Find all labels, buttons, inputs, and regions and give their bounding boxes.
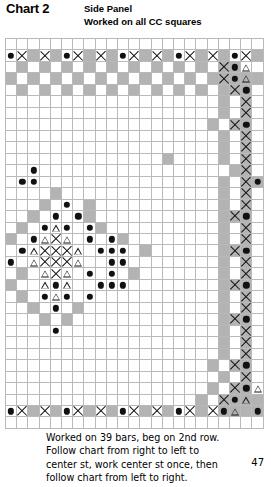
chart-cell (185, 302, 196, 313)
cross-icon (241, 223, 251, 233)
chart-cell (129, 233, 140, 244)
cross-icon (51, 245, 61, 255)
chart-cell (230, 153, 241, 164)
chart-cell (129, 176, 140, 187)
chart-cell (162, 176, 173, 187)
chart-cell (241, 119, 252, 130)
chart-row (6, 279, 264, 290)
chart-cell (106, 142, 117, 153)
chart-cell (196, 142, 207, 153)
chart-row (6, 337, 264, 348)
chart-cell (118, 325, 129, 336)
chart-cell (84, 165, 95, 176)
chart-cell (84, 73, 95, 84)
chart-cell (151, 302, 162, 313)
chart-cell (17, 73, 28, 84)
chart-cell (162, 153, 173, 164)
filled-dot-icon (6, 406, 16, 416)
chart-cell (73, 337, 84, 348)
chart-cell (95, 165, 106, 176)
chart-cell (174, 325, 185, 336)
chart-cell (62, 39, 73, 50)
chart-cell (207, 394, 218, 405)
chart-cell (185, 130, 196, 141)
chart-cell (207, 325, 218, 336)
chart-cell (140, 199, 151, 210)
chart-cell (95, 279, 106, 290)
cross-icon (51, 268, 61, 278)
cross-icon (241, 165, 251, 175)
chart-row (6, 233, 264, 244)
chart-cell (17, 291, 28, 302)
chart-cell (118, 417, 129, 429)
chart-cell (151, 165, 162, 176)
chart-row (6, 188, 264, 199)
chart-cell (241, 337, 252, 348)
chart-cell (162, 337, 173, 348)
chart-cell (84, 96, 95, 107)
chart-cell (17, 417, 28, 429)
chart-cell (230, 337, 241, 348)
chart-cell (151, 61, 162, 72)
chart-row (6, 211, 264, 222)
chart-cell (140, 61, 151, 72)
chart-cell (95, 371, 106, 382)
chart-cell (196, 73, 207, 84)
chart-cell (174, 348, 185, 359)
chart-cell (129, 84, 140, 95)
chart-cell (151, 360, 162, 371)
chart-cell (151, 153, 162, 164)
filled-dot-icon (73, 211, 83, 221)
chart-cell (185, 119, 196, 130)
chart-cell (151, 119, 162, 130)
chart-cell (95, 119, 106, 130)
chart-cell (129, 302, 140, 313)
chart-cell (207, 360, 218, 371)
chart-cell (230, 245, 241, 256)
chart-cell (140, 256, 151, 267)
chart-cell (84, 233, 95, 244)
chart-cell (39, 279, 50, 290)
chart-cell (241, 417, 252, 429)
chart-cell (218, 268, 229, 279)
chart-cell (230, 383, 241, 394)
chart-cell (62, 50, 73, 61)
chart-cell (252, 291, 264, 302)
chart-cell (39, 371, 50, 382)
chart-cell (50, 61, 61, 72)
chart-cell (106, 50, 117, 61)
chart-cell (230, 417, 241, 429)
filled-dot-icon (241, 360, 251, 370)
filled-dot-icon (84, 234, 94, 244)
chart-cell (17, 337, 28, 348)
chart-cell (140, 417, 151, 429)
chart-cell (218, 291, 229, 302)
chart-cell (230, 302, 241, 313)
chart-cell (207, 268, 218, 279)
chart-cell (17, 360, 28, 371)
chart-cell (185, 360, 196, 371)
chart-cell (151, 233, 162, 244)
chart-cell (140, 142, 151, 153)
chart-cell (241, 39, 252, 50)
cross-icon (241, 200, 251, 210)
chart-cell (252, 130, 264, 141)
chart-cell (151, 325, 162, 336)
chart-cell (50, 291, 61, 302)
chart-cell (162, 268, 173, 279)
chart-cell (28, 256, 39, 267)
chart-cell (73, 153, 84, 164)
chart-cell (84, 50, 95, 61)
chart-cell (151, 383, 162, 394)
chart-cell (151, 279, 162, 290)
chart-cell (129, 337, 140, 348)
chart-subtitle: Side Panel Worked on all CC squares (84, 2, 202, 28)
chart-header: Chart 2 Side Panel Worked on all CC squa… (0, 0, 271, 38)
chart-cell (230, 165, 241, 176)
chart-cell (95, 50, 106, 61)
chart-cell (73, 165, 84, 176)
chart-cell (50, 337, 61, 348)
chart-row (6, 245, 264, 256)
chart-cell (28, 211, 39, 222)
chart-cell (196, 233, 207, 244)
